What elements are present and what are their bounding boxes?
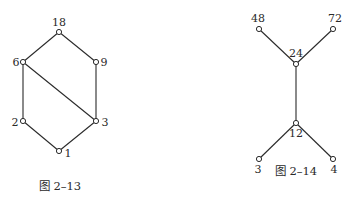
node-3	[256, 156, 261, 161]
node-label: 18	[52, 16, 66, 29]
node-label: 72	[328, 12, 342, 25]
node-18	[56, 29, 61, 34]
edge-6-3	[23, 62, 96, 121]
node-12	[293, 120, 298, 125]
node-label: 3	[102, 116, 109, 129]
figure-caption: 图 2–13	[39, 179, 81, 193]
node-label: 3	[255, 163, 262, 176]
figure-caption: 图 2–14	[275, 164, 317, 178]
node-72	[330, 26, 335, 31]
hasse-diagrams: 1869231图 2–13 4872241234图 2–14	[0, 0, 350, 203]
node-label: 6	[13, 56, 20, 69]
figure-2-14: 4872241234图 2–14	[251, 12, 342, 178]
node-48	[256, 26, 261, 31]
node-1	[56, 148, 61, 153]
node-label: 2	[12, 116, 19, 129]
node-24	[293, 61, 298, 66]
node-label: 1	[65, 147, 72, 160]
edge-2-1	[23, 121, 59, 151]
node-6	[20, 59, 25, 64]
node-label: 4	[331, 163, 338, 176]
node-2	[20, 118, 25, 123]
node-4	[330, 156, 335, 161]
edge-18-6	[23, 32, 59, 62]
node-label: 9	[101, 56, 108, 69]
node-3	[93, 118, 98, 123]
node-label: 24	[289, 47, 303, 60]
figure-2-13: 1869231图 2–13	[12, 16, 109, 193]
node-label: 48	[251, 12, 265, 25]
edge-18-9	[59, 32, 96, 62]
node-9	[93, 59, 98, 64]
node-label: 12	[289, 127, 303, 140]
